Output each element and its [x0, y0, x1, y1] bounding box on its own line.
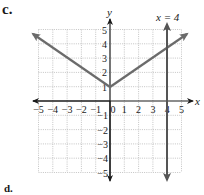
- x-tick-label: 1: [122, 104, 127, 115]
- y-axis-label: y: [106, 6, 112, 18]
- x-tick-label: −2: [76, 104, 87, 115]
- x-tick-label: −5: [33, 104, 44, 115]
- absolute-value-graph-right: [110, 34, 187, 87]
- x-tick-label: −4: [47, 104, 58, 115]
- y-tick-label: 3: [102, 53, 107, 64]
- y-tick-label: −5: [97, 168, 108, 179]
- x-tick-label: 3: [150, 104, 155, 115]
- y-tick-label: 4: [102, 39, 107, 50]
- absolute-value-graph-left: [33, 34, 110, 87]
- y-tick-label: −3: [97, 139, 108, 150]
- y-tick-label: 5: [102, 25, 107, 36]
- x-tick-label: −3: [62, 104, 73, 115]
- x-tick-label: 5: [179, 104, 184, 115]
- x-axis-label: x: [194, 95, 200, 107]
- y-tick-label: −2: [97, 125, 108, 136]
- x-tick-label: 0: [111, 104, 116, 115]
- y-tick-label: −4: [97, 153, 108, 164]
- y-tick-label: 2: [102, 67, 107, 78]
- coordinate-plane: x y −5−4−3−2−101234512345−1−2−3−4−5 x = …: [0, 0, 204, 195]
- x-tick-label: 2: [136, 104, 141, 115]
- vertical-line-label: x = 4: [155, 11, 180, 23]
- y-tick-label: −1: [97, 110, 108, 121]
